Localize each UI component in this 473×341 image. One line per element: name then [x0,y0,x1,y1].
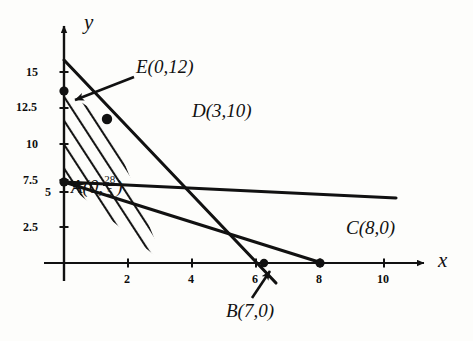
graph-svg [0,0,473,341]
point-label-C: C(8,0) [346,218,395,237]
x-tick-label-10: 10 [377,273,389,285]
point-label-B: B(7,0) [226,301,274,320]
y-tick-label-7-5: 7.5 [23,174,38,186]
point-D-marker [102,114,112,124]
y-tick-label-15: 15 [26,66,38,78]
point-B-marker [260,259,268,267]
fraction-28-over-5: 285 [103,174,116,198]
point-label-A-prefix: A(0, [71,176,103,197]
fraction-denominator: 5 [103,186,116,197]
y-axis-name: y [84,12,93,33]
figure-canvas: 15 12.5 10 7.5 5 2.5 2 4 6 8 10 y x E(0,… [0,0,473,341]
point-E-marker [59,86,68,95]
point-label-A: A(0,285) [71,175,123,199]
y-tick-label-12-5: 12.5 [16,101,37,113]
point-A-marker [59,177,68,186]
y-tick-label-2-5: 2.5 [23,221,38,233]
x-tick-label-8: 8 [316,273,322,285]
x-tick-label-6: 6 [252,273,258,285]
y-tick-label-10: 10 [26,138,38,150]
point-label-E: E(0,12) [136,57,194,76]
point-label-D: D(3,10) [192,101,252,120]
x-tick-label-4: 4 [188,273,194,285]
x-tick-label-2: 2 [124,273,130,285]
x-axis-name: x [438,250,447,271]
y-tick-label-5: 5 [45,186,51,198]
point-C-marker [315,258,324,267]
point-label-A-suffix: ) [116,176,122,197]
